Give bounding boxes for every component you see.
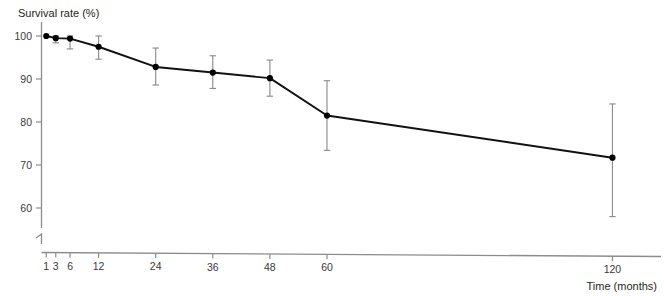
y-tick-label: 90 (20, 73, 32, 85)
data-point-marker (609, 155, 615, 161)
y-tick-label: 60 (20, 202, 32, 214)
x-tick-label: 6 (67, 260, 73, 272)
data-point-marker (210, 69, 216, 75)
y-axis-title: Survival rate (%) (18, 7, 99, 19)
y-tick-label: 70 (20, 159, 32, 171)
y-tick-label: 80 (20, 116, 32, 128)
y-axis-break-icon (36, 234, 42, 244)
x-tick-label: 36 (207, 261, 219, 273)
x-tick-label: 48 (264, 261, 276, 273)
x-axis-line (42, 253, 662, 257)
data-point-marker (95, 44, 101, 50)
y-axis-ticks: 60708090100 (14, 30, 41, 214)
x-tick-label: 24 (150, 260, 162, 272)
data-point-marker (67, 35, 73, 41)
error-bars (53, 36, 616, 217)
chart-plot-area: Survival rate (%) Time (months) 60708090… (0, 0, 664, 296)
x-axis-title: Time (months) (587, 280, 658, 292)
x-tick-label: 12 (93, 260, 105, 272)
data-point-marker (43, 33, 49, 39)
survival-curve-line (46, 36, 612, 158)
x-tick-label: 3 (53, 260, 59, 272)
x-tick-label: 60 (321, 261, 333, 273)
data-point-marker (53, 35, 59, 41)
data-point-marker (153, 64, 159, 70)
x-tick-label: 120 (604, 263, 622, 275)
y-tick-label: 100 (14, 30, 32, 42)
data-point-marker (267, 75, 273, 81)
x-tick-label: 1 (43, 260, 49, 272)
data-point-marker (324, 112, 330, 118)
survival-rate-chart: Survival rate (%) Time (months) 60708090… (0, 0, 664, 296)
data-point-markers (43, 33, 615, 161)
